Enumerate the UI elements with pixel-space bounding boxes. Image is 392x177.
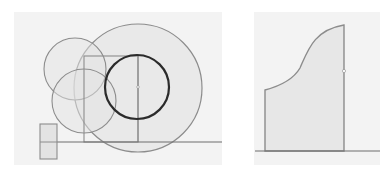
right-figure [230,0,392,177]
left-diagram-canvas [0,0,230,177]
left-figure [0,0,230,177]
center-point [137,86,140,89]
marker-point [342,69,345,72]
right-diagram-canvas [230,0,392,177]
